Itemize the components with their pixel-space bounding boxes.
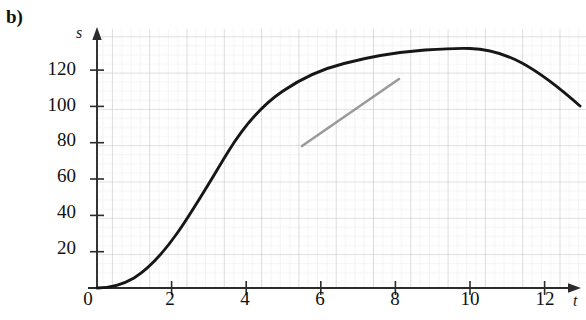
x-tick-label-8: 8 — [382, 288, 408, 310]
graph-figure: b) s t 120 100 80 60 40 20 0 2 4 6 8 10 … — [0, 0, 586, 320]
y-tick-label-40: 40 — [14, 201, 76, 223]
grid-region — [97, 29, 586, 288]
y-tick-label-60: 60 — [14, 165, 76, 187]
y-tick-label-100: 100 — [14, 94, 76, 116]
y-tick-label-20: 20 — [14, 237, 76, 259]
x-tick-label-12: 12 — [527, 288, 563, 310]
y-tick-label-80: 80 — [14, 129, 76, 151]
part-label-b: b) — [6, 6, 23, 28]
x-tick-label-4: 4 — [232, 288, 258, 310]
x-tick-label-6: 6 — [307, 288, 333, 310]
x-axis-symbol: t — [573, 292, 577, 310]
y-axis-symbol: s — [76, 24, 82, 42]
x-tick-label-2: 2 — [157, 288, 183, 310]
plot-canvas — [0, 0, 586, 320]
origin-label: 0 — [75, 288, 101, 310]
y-tick-label-120: 120 — [14, 58, 76, 80]
x-tick-label-10: 10 — [452, 288, 488, 310]
